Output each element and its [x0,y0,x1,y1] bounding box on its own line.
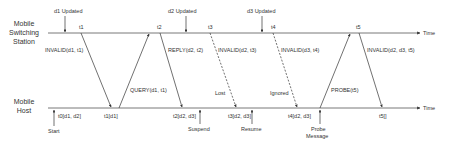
message-label: QUERY(d1, t1) [130,87,167,93]
time-label: Time [423,30,435,36]
time-label: Time [423,105,435,111]
message-reply [160,33,182,107]
message-query [119,34,149,108]
host-state: t5[] [379,113,387,119]
host-state: t3[d2, d3] [228,113,251,119]
timeline-diagram: Mobile Switching Station Mobile Host Tim… [0,0,452,148]
station-tick: t3 [208,24,213,30]
host-label: Mobile [14,98,35,105]
start-label: Start [48,128,60,134]
station-tick: t1 [79,24,84,30]
lost-label: Lost [215,90,226,96]
message-label: INVALID(d2, d3, t5) [367,47,415,53]
update-label: d1 Updated [54,8,82,14]
message-probe [320,34,350,108]
message-invalid-1 [81,33,111,107]
resume-label: Resume [241,126,261,132]
message-label: REPLY(d2, t2) [168,47,203,53]
message-label: INVALID(d2, t3) [218,47,257,53]
host-state: t1[d1] [104,113,118,119]
host-label: Host [17,107,31,114]
station-label: Station [13,38,35,45]
ignored-label: Ignored [270,90,289,96]
host-state: t2[d2, d3] [173,113,196,119]
host-state: t0[d1, d2] [58,113,81,119]
station-tick: t2 [157,24,162,30]
message-label: INVALID(d1, t1) [45,47,84,53]
station-tick: t4 [271,24,276,30]
probe-label: Message [306,133,328,139]
station-tick: t5 [356,24,361,30]
message-label: PROBE(t5) [331,87,359,93]
station-label: Mobile [14,20,35,27]
probe-label: Probe [311,126,326,132]
host-state: t4[d2, d3] [288,113,311,119]
update-label: d2 Updated [168,8,196,14]
suspend-label: Suspend [188,126,210,132]
station-label: Switching [9,29,39,37]
message-label: INVALID(d3, t4) [281,47,320,53]
update-label: d3 Updated [247,8,275,14]
message-invalid-final [359,33,382,107]
